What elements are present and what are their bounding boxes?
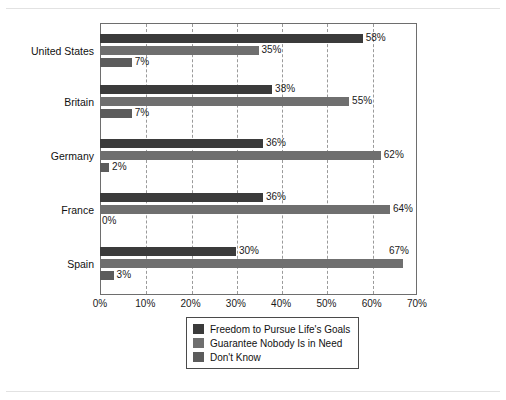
bar-group-united-states: 58% 35% 7% xyxy=(100,34,417,70)
bar-es-dontknow[interactable] xyxy=(100,271,114,280)
xtick-30: 30% xyxy=(226,298,246,309)
legend-label-freedom: Freedom to Pursue Life's Goals xyxy=(210,324,350,335)
bar-row-fr-dontknow: 0% xyxy=(100,217,417,226)
xtick-50: 50% xyxy=(316,298,336,309)
legend-label-dontknow: Don't Know xyxy=(210,352,261,363)
bar-fr-guarantee[interactable] xyxy=(100,205,390,214)
bar-value-fr-dontknow: 0% xyxy=(102,214,116,228)
bar-de-freedom[interactable] xyxy=(100,139,263,148)
bar-es-freedom[interactable] xyxy=(100,247,236,256)
bar-group-britain: 38% 55% 7% xyxy=(100,85,417,121)
legend-item-guarantee[interactable]: Guarantee Nobody Is in Need xyxy=(193,336,350,350)
bar-row-de-guarantee: 62% xyxy=(100,151,417,160)
bar-uk-guarantee[interactable] xyxy=(100,97,349,106)
bar-group-spain: 30% 67% 3% xyxy=(100,247,417,283)
xtick-10: 10% xyxy=(135,298,155,309)
category-label-spain: Spain xyxy=(0,258,94,270)
bar-value-uk-freedom: 38% xyxy=(275,82,295,96)
xtick-0: 0% xyxy=(93,298,107,309)
bar-row-es-freedom: 30% xyxy=(100,247,417,256)
bar-de-dontknow[interactable] xyxy=(100,163,109,172)
bar-uk-freedom[interactable] xyxy=(100,85,272,94)
bar-value-uk-dontknow: 7% xyxy=(135,106,149,120)
bar-row-us-guarantee: 35% xyxy=(100,46,417,55)
bar-value-es-freedom: 30% xyxy=(239,244,259,258)
bar-row-fr-freedom: 36% xyxy=(100,193,417,202)
bar-group-germany: 36% 62% 2% xyxy=(100,139,417,175)
bar-value-es-guarantee: 67% xyxy=(389,244,409,258)
bar-us-dontknow[interactable] xyxy=(100,58,132,67)
bar-row-uk-dontknow: 7% xyxy=(100,109,417,118)
legend-item-dontknow[interactable]: Don't Know xyxy=(193,350,350,364)
bar-row-us-freedom: 58% xyxy=(100,34,417,43)
bar-value-fr-guarantee: 64% xyxy=(393,202,413,216)
bar-value-de-freedom: 36% xyxy=(266,136,286,150)
legend-swatch-guarantee-icon xyxy=(193,338,204,348)
bar-value-de-dontknow: 2% xyxy=(112,160,126,174)
xtick-70: 70% xyxy=(407,298,427,309)
bar-group-france: 36% 64% 0% xyxy=(100,193,417,229)
category-label-germany: Germany xyxy=(0,150,94,162)
bar-fr-freedom[interactable] xyxy=(100,193,263,202)
bar-es-guarantee[interactable] xyxy=(100,259,403,268)
legend-item-freedom[interactable]: Freedom to Pursue Life's Goals xyxy=(193,322,350,336)
bar-value-us-freedom: 58% xyxy=(366,31,386,45)
xtick-40: 40% xyxy=(271,298,291,309)
bar-chart-figure: 58% 35% 7% 38% 55% 7% xyxy=(0,0,506,400)
bar-value-fr-freedom: 36% xyxy=(266,190,286,204)
bar-value-uk-guarantee: 55% xyxy=(352,94,372,108)
bar-us-guarantee[interactable] xyxy=(100,46,259,55)
category-label-britain: Britain xyxy=(0,96,94,108)
bar-value-us-dontknow: 7% xyxy=(135,55,149,69)
bar-groups: 58% 35% 7% 38% 55% 7% xyxy=(100,23,417,295)
bar-value-us-guarantee: 35% xyxy=(262,43,282,57)
bar-de-guarantee[interactable] xyxy=(100,151,381,160)
bar-row-fr-guarantee: 64% xyxy=(100,205,417,214)
bar-value-de-guarantee: 62% xyxy=(384,148,404,162)
xtick-60: 60% xyxy=(362,298,382,309)
chart-legend: Freedom to Pursue Life's Goals Guarantee… xyxy=(186,317,359,369)
category-label-united-states: United States xyxy=(0,45,94,57)
legend-swatch-freedom-icon xyxy=(193,324,204,334)
bar-row-es-guarantee: 67% xyxy=(100,259,417,268)
xtick-20: 20% xyxy=(181,298,201,309)
legend-label-guarantee: Guarantee Nobody Is in Need xyxy=(210,338,342,349)
legend-swatch-dontknow-icon xyxy=(193,352,204,362)
bar-row-es-dontknow: 3% xyxy=(100,271,417,280)
bar-row-de-dontknow: 2% xyxy=(100,163,417,172)
bar-row-us-dontknow: 7% xyxy=(100,58,417,67)
bar-row-uk-guarantee: 55% xyxy=(100,97,417,106)
bar-us-freedom[interactable] xyxy=(100,34,363,43)
bar-row-uk-freedom: 38% xyxy=(100,85,417,94)
category-label-france: France xyxy=(0,204,94,216)
bar-row-de-freedom: 36% xyxy=(100,139,417,148)
bar-value-es-dontknow: 3% xyxy=(117,268,131,282)
bar-uk-dontknow[interactable] xyxy=(100,109,132,118)
